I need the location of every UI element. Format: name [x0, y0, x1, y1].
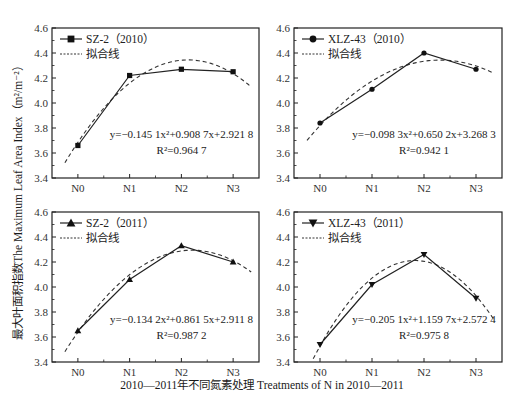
x-tick-label: N2 [175, 182, 188, 194]
y-tick-label: 3.4 [276, 172, 290, 184]
y-tick-label: 4.2 [34, 256, 48, 268]
fit-r-squared: R²=0.964 7 [157, 144, 207, 156]
fit-r-squared: R²=0.942 1 [399, 144, 449, 156]
fit-equation: y=−0.145 1x²+0.908 7x+2.921 8 [110, 128, 254, 140]
y-axis-title: 最大叶面积指数The Maximum Leaf Area Index（m²/m⁻… [9, 50, 25, 350]
y-tick-label: 3.6 [276, 331, 290, 343]
y-tick-label: 3.8 [34, 122, 48, 134]
x-tick-label: N1 [123, 182, 136, 194]
y-tick-label: 4.2 [276, 72, 290, 84]
chart-panel-top-right: 3.43.63.84.04.24.44.6N0N1N2N3XLZ-43（2010… [276, 22, 502, 194]
y-tick-label: 3.4 [276, 356, 290, 368]
y-tick-label: 4.4 [34, 47, 48, 59]
y-tick-label: 3.8 [276, 122, 290, 134]
legend-marker-icon [68, 36, 75, 43]
data-point-marker [75, 143, 80, 148]
y-tick-label: 4.2 [34, 72, 48, 84]
x-tick-label: N3 [226, 182, 240, 194]
y-tick-label: 4.4 [276, 47, 290, 59]
chart-panel-bottom-right: 3.43.63.84.04.24.44.6N0N1N2N3XLZ-43（2011… [276, 206, 502, 378]
plot-frame [52, 28, 259, 178]
chart-panel-top-left: 3.43.63.84.04.24.44.6N0N1N2N3SZ-2（2010）拟… [34, 22, 259, 194]
y-tick-label: 4.6 [34, 206, 48, 218]
legend-series-label: XLZ-43（2011） [328, 217, 410, 229]
data-point-marker [317, 342, 324, 348]
y-tick-label: 4.0 [34, 281, 48, 293]
y-tick-label: 4.0 [276, 97, 290, 109]
x-tick-label: N3 [469, 182, 483, 194]
data-point-marker [179, 67, 184, 72]
x-tick-label: N1 [365, 182, 378, 194]
legend-fit-label: 拟合线 [86, 47, 120, 61]
y-tick-label: 3.8 [276, 306, 290, 318]
fit-curve [313, 261, 494, 359]
y-tick-label: 4.4 [34, 231, 48, 243]
data-point-marker [126, 276, 133, 282]
data-point-marker [317, 120, 322, 125]
x-tick-label: N0 [71, 182, 85, 194]
plot-frame [294, 212, 502, 362]
observed-line [320, 53, 476, 123]
legend-fit-label: 拟合线 [328, 47, 362, 61]
legend-marker-icon [310, 36, 317, 43]
y-tick-label: 3.6 [34, 331, 48, 343]
y-tick-label: 4.0 [276, 281, 290, 293]
legend-series-label: SZ-2（2011） [86, 217, 154, 229]
fit-r-squared: R²=0.975 8 [399, 329, 449, 341]
x-tick-label: N2 [417, 182, 430, 194]
data-point-marker [473, 67, 478, 72]
y-tick-label: 3.6 [34, 147, 48, 159]
y-tick-label: 4.6 [276, 206, 290, 218]
legend-fit-label: 拟合线 [86, 231, 120, 245]
fit-equation: y=−0.098 3x²+0.650 2x+3.268 3 [352, 128, 496, 140]
data-point-marker [178, 242, 185, 248]
y-tick-label: 4.0 [34, 97, 48, 109]
plot-frame [294, 28, 502, 178]
x-axis-title: 2010—2011年不同氮素处理 Treatments of N in 2010… [0, 376, 524, 392]
y-tick-label: 3.4 [34, 356, 48, 368]
data-point-marker [127, 73, 132, 78]
legend-series-label: SZ-2（2010） [86, 33, 154, 45]
fit-r-squared: R²=0.987 2 [157, 329, 207, 341]
plot-frame [52, 212, 259, 362]
chart-figure: 3.43.63.84.04.24.44.6N0N1N2N3SZ-2（2010）拟… [0, 0, 524, 411]
observed-line [320, 255, 476, 345]
y-tick-label: 3.8 [34, 306, 48, 318]
y-tick-label: 4.6 [34, 22, 48, 34]
fit-equation: y=−0.205 1x²+1.159 7x+2.572 4 [352, 313, 496, 325]
fit-equation: y=−0.134 2x²+0.861 5x+2.911 8 [110, 313, 254, 325]
data-point-marker [421, 50, 426, 55]
y-tick-label: 3.4 [34, 172, 48, 184]
y-tick-label: 3.6 [276, 147, 290, 159]
y-tick-label: 4.2 [276, 256, 290, 268]
y-tick-label: 4.6 [276, 22, 290, 34]
legend-series-label: XLZ-43（2010） [328, 33, 411, 45]
data-point-marker [369, 87, 374, 92]
x-tick-label: N0 [313, 182, 327, 194]
y-tick-label: 4.4 [276, 231, 290, 243]
chart-panel-bottom-left: 3.43.63.84.04.24.44.6N0N1N2N3SZ-2（2011）拟… [34, 206, 259, 378]
data-point-marker [231, 69, 236, 74]
legend-fit-label: 拟合线 [328, 231, 362, 245]
